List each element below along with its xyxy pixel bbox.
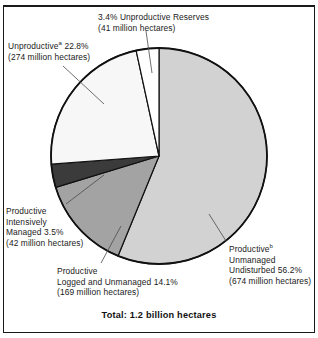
label-undisturbed-line3: Undisturbed 56.2% xyxy=(229,265,311,276)
total-caption: Total: 1.2 billion hectares xyxy=(0,310,318,320)
label-productive-unmanaged-undisturbed: Productiveb Unmanaged Undisturbed 56.2% … xyxy=(229,244,311,286)
label-intensive-line4: (42 million hectares) xyxy=(6,238,84,249)
label-intensive-line1: Productive xyxy=(6,206,84,217)
label-logged-line2: Logged and Unmanaged 14.1% xyxy=(57,277,178,288)
label-undisturbed-line4: (674 million hectares) xyxy=(229,276,311,287)
label-logged-line3: (169 million hectares) xyxy=(57,287,178,298)
label-unproductive-line1: Unproductivea 22.8% xyxy=(8,41,90,52)
label-undisturbed-line2: Unmanaged xyxy=(229,255,311,266)
label-productive-logged-and-unmanaged: Productive Logged and Unmanaged 14.1% (1… xyxy=(57,266,178,298)
label-reserves-line2: (41 million hectares) xyxy=(98,23,209,34)
label-intensive-line2: Intensively xyxy=(6,217,84,228)
label-unproductive-reserves: 3.4% Unproductive Reserves (41 million h… xyxy=(98,12,209,33)
label-unproductive-line2: (274 million hectares) xyxy=(8,52,90,63)
footnote-marker-b: b xyxy=(270,243,273,249)
label-reserves-line1: 3.4% Unproductive Reserves xyxy=(98,12,209,23)
label-unproductive-text: Unproductive xyxy=(8,41,59,51)
pie-chart-figure: 3.4% Unproductive Reserves (41 million h… xyxy=(0,0,318,338)
label-unproductive: Unproductivea 22.8% (274 million hectare… xyxy=(8,41,90,62)
label-productive-intensively-managed: Productive Intensively Managed 3.5% (42 … xyxy=(6,206,84,248)
label-logged-line1: Productive xyxy=(57,266,178,277)
label-intensive-line3: Managed 3.5% xyxy=(6,227,84,238)
label-undisturbed-line1: Productiveb xyxy=(229,244,311,255)
label-undisturbed-text: Productive xyxy=(229,244,270,254)
label-unproductive-percent: 22.8% xyxy=(62,41,89,51)
